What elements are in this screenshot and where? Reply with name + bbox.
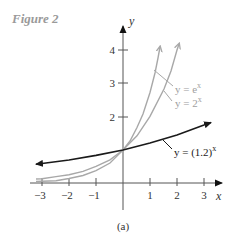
exponential-graph: −3 −2 −1 1 2 3 x 2 3 4 y y = ex y = 2x y… [0, 0, 240, 244]
label-1-2-x: y = (1.2)x [174, 144, 216, 159]
leader-2-x [164, 91, 172, 101]
x-axis-label: x [215, 189, 222, 203]
figure-caption: (a) [117, 220, 130, 233]
y-axis-label: y [128, 14, 135, 28]
svg-text:3: 3 [110, 77, 116, 89]
curve-1-2-x [36, 125, 204, 164]
svg-text:3: 3 [201, 189, 207, 201]
svg-text:4: 4 [110, 44, 116, 56]
curve-1-2-x-right [204, 123, 211, 126]
svg-text:1: 1 [147, 189, 153, 201]
svg-text:−3: −3 [34, 189, 46, 201]
svg-text:2: 2 [174, 189, 180, 201]
curve-2-x [36, 44, 179, 179]
svg-text:2: 2 [110, 111, 116, 123]
x-tick-labels: −3 −2 −1 1 2 3 [34, 189, 207, 201]
y-tick-labels: 2 3 4 [110, 44, 116, 123]
svg-text:−1: −1 [88, 189, 100, 201]
label-2-x: y = 2x [175, 95, 202, 109]
svg-text:−2: −2 [61, 189, 73, 201]
leader-1-2-x [163, 140, 172, 149]
label-e-x: y = ex [175, 81, 201, 95]
